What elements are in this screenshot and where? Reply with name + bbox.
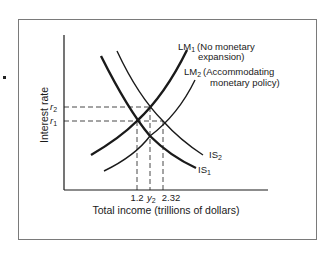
- x-tick-1-2: 1.2: [130, 192, 143, 203]
- lm2-desc-line2: monetary policy): [210, 77, 280, 88]
- r1-label: r1: [50, 115, 57, 127]
- guide-lines: [64, 107, 163, 190]
- lm2-label: LM2(Accommodating: [184, 66, 274, 78]
- x-tick-y2: y2: [146, 192, 156, 204]
- y-axis-label: Interest rate: [38, 87, 50, 143]
- is1-label: IS1: [198, 164, 211, 176]
- x-axis-label: Total income (trillions of dollars): [92, 204, 239, 216]
- lm1-desc-line2: expansion): [198, 51, 244, 62]
- islm-diagram: Interest rate Total income (trillions of…: [0, 0, 331, 255]
- x-tick-2-32: 2.32: [162, 192, 181, 203]
- lm2-curve: [104, 80, 195, 171]
- is1-curve: [101, 56, 196, 168]
- r2-label: r2: [50, 101, 57, 113]
- is2-label: IS2: [209, 149, 222, 161]
